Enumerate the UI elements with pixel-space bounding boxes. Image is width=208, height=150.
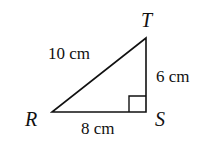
vertex-label-s: S: [155, 108, 165, 130]
vertex-label-t: T: [141, 9, 154, 31]
side-label-ts: 6 cm: [156, 67, 190, 86]
triangle-diagram: T R S 10 cm 6 cm 8 cm: [0, 0, 208, 150]
right-angle-marker: [129, 96, 146, 112]
vertex-label-r: R: [24, 108, 37, 130]
side-label-rt: 10 cm: [48, 44, 90, 63]
side-label-rs: 8 cm: [81, 119, 115, 138]
